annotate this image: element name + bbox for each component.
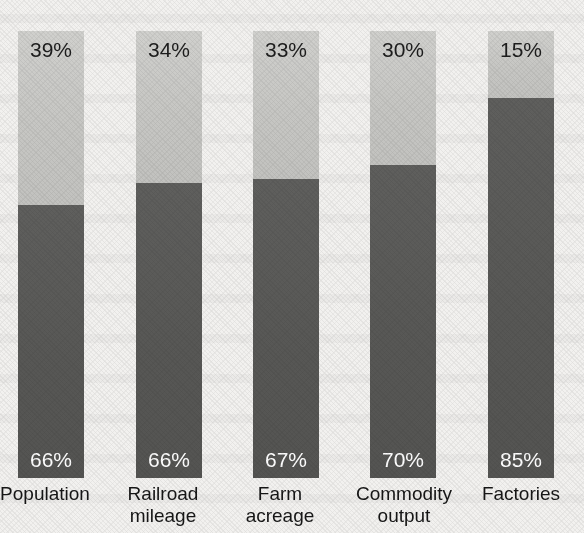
bar-column-factories: 15% 85% bbox=[488, 31, 554, 478]
category-label-railroad-mileage: Railroad mileage bbox=[106, 483, 220, 527]
bar-segment-lower-population: 66% bbox=[18, 205, 84, 478]
bar-value-lower-factories: 85% bbox=[488, 448, 554, 472]
stacked-bar-factories[interactable]: 15% 85% bbox=[488, 31, 554, 478]
bar-value-lower-railroad-mileage: 66% bbox=[136, 448, 202, 472]
chart-plot-area: 39% 66% 34% 66% 33% bbox=[18, 31, 566, 478]
stacked-bar-population[interactable]: 39% 66% bbox=[18, 31, 84, 478]
category-label-factories: Factories bbox=[459, 483, 583, 505]
bar-segment-upper-factories: 15% bbox=[488, 31, 554, 98]
bar-segment-upper-population: 39% bbox=[18, 31, 84, 205]
category-label-population: Population bbox=[0, 483, 102, 505]
bar-value-upper-commodity-output: 30% bbox=[370, 38, 436, 62]
bar-value-upper-factories: 15% bbox=[488, 38, 554, 62]
bar-column-population: 39% 66% bbox=[18, 31, 84, 478]
bar-segment-lower-factories: 85% bbox=[488, 98, 554, 478]
bar-value-lower-population: 66% bbox=[18, 448, 84, 472]
stacked-bar-commodity-output[interactable]: 30% 70% bbox=[370, 31, 436, 478]
category-label-commodity-output: Commodity output bbox=[339, 483, 469, 527]
bar-segment-lower-farm-acreage: 67% bbox=[253, 179, 319, 478]
bar-value-lower-commodity-output: 70% bbox=[370, 448, 436, 472]
bar-segment-lower-commodity-output: 70% bbox=[370, 165, 436, 478]
bar-segment-lower-railroad-mileage: 66% bbox=[136, 183, 202, 478]
category-label-farm-acreage: Farm acreage bbox=[223, 483, 337, 527]
stacked-bar-chart: 39% 66% 34% 66% 33% bbox=[0, 0, 584, 533]
stacked-bar-railroad-mileage[interactable]: 34% 66% bbox=[136, 31, 202, 478]
bar-segment-upper-farm-acreage: 33% bbox=[253, 31, 319, 179]
bar-column-railroad-mileage: 34% 66% bbox=[136, 31, 202, 478]
bar-column-commodity-output: 30% 70% bbox=[370, 31, 436, 478]
bar-segment-upper-commodity-output: 30% bbox=[370, 31, 436, 165]
bar-segment-upper-railroad-mileage: 34% bbox=[136, 31, 202, 183]
bar-value-upper-population: 39% bbox=[18, 38, 84, 62]
bar-value-upper-railroad-mileage: 34% bbox=[136, 38, 202, 62]
bar-column-farm-acreage: 33% 67% bbox=[253, 31, 319, 478]
bar-value-lower-farm-acreage: 67% bbox=[253, 448, 319, 472]
bar-value-upper-farm-acreage: 33% bbox=[253, 38, 319, 62]
stacked-bar-farm-acreage[interactable]: 33% 67% bbox=[253, 31, 319, 478]
